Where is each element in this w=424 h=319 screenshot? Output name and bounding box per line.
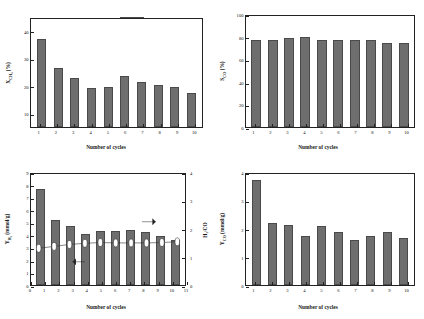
y-tick-label: 0 [241,126,243,131]
bar [37,39,46,127]
x-tick-label: 8 [142,288,144,293]
y-tick-label: 60 [239,58,244,63]
x-tick-mark [374,282,375,285]
y-axis-tick-labels: 020406080100 [212,15,244,128]
x-tick-mark [391,282,392,285]
x-axis-tick-labels: 12345678910 [245,288,415,296]
y-tick-mark-right [182,230,185,231]
y-tick-mark-right [182,174,185,175]
y-tick-label: 6 [26,208,28,213]
panel-a-bars [31,19,202,127]
panel-c-plot-frame [30,173,186,286]
panel-c-y-axis-title-right: H₂/CO [200,173,210,286]
x-tick-mark [159,282,160,285]
panel-d-plot-frame [245,173,415,286]
panel-c-bars [31,174,185,285]
y-tick-mark [31,274,34,275]
x-tick-label: 2 [269,130,271,135]
x-tick-label: 8 [159,130,161,135]
x-tick-mark [323,282,324,285]
x-tick-mark [102,282,103,285]
y-axis-tick-labels: 01234 [212,173,244,286]
y-tick-mark [246,174,249,175]
bar [334,232,343,285]
bar [301,236,310,285]
y-tick-label: 7 [26,196,28,201]
x-tick-label: 1 [252,288,254,293]
x-tick-mark [391,124,392,127]
x-tick-label: 7 [354,130,356,135]
x-tick-label: 9 [388,130,390,135]
bar [350,240,359,285]
x-tick-label: 7 [128,288,130,293]
bar [104,87,113,128]
bar [252,180,261,285]
x-tick-label: 10 [404,130,409,135]
y-tick-mark [246,61,249,62]
panel-a-plot-frame [30,18,203,128]
bar [382,43,392,127]
y-tick-label: 0 [241,284,243,289]
bar [170,87,179,127]
x-tick-mark [289,282,290,285]
y-tick-label-right: 2 [190,227,192,232]
x-tick-label: 10 [404,288,409,293]
y-tick-label: 40 [24,29,29,34]
bar [317,40,327,127]
bar [111,231,120,285]
x-tick-label: 5 [100,288,102,293]
y-tick-label: 20 [24,84,29,89]
y-tick-label: 2 [26,258,28,263]
bar [399,43,409,127]
x-tick-mark [109,124,110,127]
x-axis-tick-labels: 01234567891011 [30,288,186,296]
x-tick-label: 7 [141,130,143,135]
y-tick-label: 100 [237,13,244,18]
bar [399,238,408,285]
bar [284,38,294,127]
x-tick-label: 8 [371,130,373,135]
x-tick-label: 5 [320,288,322,293]
y-tick-mark [246,16,249,17]
panel-c-x-axis-title: Number of cycles [0,304,212,310]
y-tick-mark [31,186,34,187]
x-tick-label: 7 [354,288,356,293]
x-tick-label: 0 [29,288,31,293]
y-tick-label: 2 [241,227,243,232]
bar [54,68,63,127]
x-tick-label: 8 [371,288,373,293]
x-tick-mark [272,124,273,127]
x-tick-mark [45,282,46,285]
x-tick-mark [408,282,409,285]
y-tick-label: 3 [241,199,243,204]
y-axis-right-tick-labels: 01234 [190,173,198,286]
x-tick-label: 4 [89,130,91,135]
bar [36,189,45,285]
y-tick-mark-right [182,202,185,203]
y-tick-label-right: 0 [190,284,192,289]
y-tick-label-right: 1 [190,255,192,260]
bar [333,40,343,127]
y-tick-mark [246,106,249,107]
x-tick-mark [74,282,75,285]
y-tick-mark [246,84,249,85]
y-tick-label: 1 [241,255,243,260]
panel-c: (c) Ca₂Fe₂O₅ YH₂ (mmol/g) H₂/CO Number o… [0,159,212,319]
x-tick-label: 6 [337,130,339,135]
y-tick-label: 3 [26,246,28,251]
bar [268,40,278,127]
x-tick-label: 9 [388,288,390,293]
bar [251,40,261,127]
y-tick-label: 10 [24,112,29,117]
bar [70,78,79,127]
figure-panel-grid: (a) Ca₂Fe₂O₅ XCH₄ (%) Number of cycles 1… [0,0,424,319]
x-tick-label: 5 [107,130,109,135]
y-tick-label: 9 [26,171,28,176]
x-tick-label: 9 [156,288,158,293]
panel-c-plot-area [31,174,185,285]
x-tick-label: 4 [303,130,305,135]
x-tick-mark [143,124,144,127]
panel-b-plot-frame [245,15,415,128]
x-tick-label: 5 [320,130,322,135]
x-tick-mark [357,282,358,285]
